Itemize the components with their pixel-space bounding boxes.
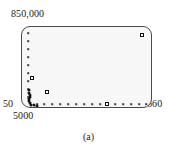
scatter-point: [130, 103, 132, 105]
scatter-point: [138, 103, 140, 105]
scatter-point: [27, 72, 29, 74]
scatter-point: [27, 80, 29, 82]
scatter-point: [114, 103, 116, 105]
scatter-point: [99, 103, 101, 105]
scatter-point: [67, 103, 69, 105]
x-axis-min-label: 5000: [13, 110, 33, 121]
scatter-point: [27, 40, 29, 42]
figure-caption: (a): [0, 131, 177, 142]
scatter-points-layer: [22, 27, 151, 107]
figure-panel: 850,000 50 5000 660 (a): [0, 0, 177, 151]
scatter-point: [36, 105, 39, 108]
y-axis-min-label: 50: [3, 98, 13, 109]
scatter-plot-area: [21, 26, 152, 108]
scatter-point: [27, 48, 29, 50]
scatter-point: [83, 103, 85, 105]
scatter-point: [43, 103, 45, 105]
scatter-point: [145, 103, 147, 105]
scatter-point: [59, 103, 61, 105]
scatter-point: [30, 76, 34, 80]
scatter-point: [27, 56, 29, 58]
scatter-point: [27, 64, 29, 66]
scatter-point: [122, 103, 124, 105]
scatter-point: [105, 102, 109, 106]
scatter-point: [140, 33, 144, 37]
scatter-point: [27, 32, 29, 34]
scatter-point: [91, 103, 93, 105]
scatter-point: [51, 103, 53, 105]
y-axis-max-label: 850,000: [11, 8, 44, 19]
scatter-point: [45, 90, 49, 94]
scatter-point: [75, 103, 77, 105]
